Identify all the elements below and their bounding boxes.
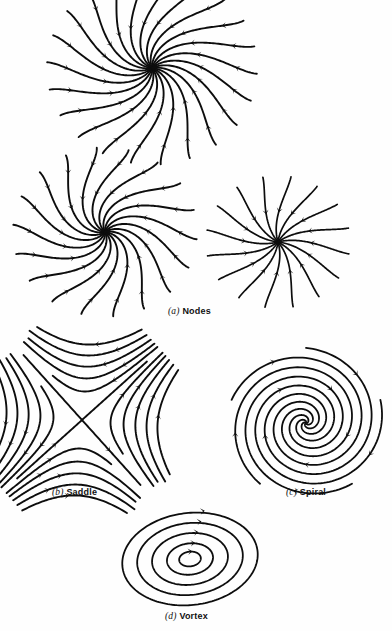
caption-name: Spiral	[297, 487, 326, 497]
caption-name: Saddle	[64, 487, 97, 497]
caption-b: (b) Saddle	[52, 487, 97, 497]
trajectory	[0, 358, 29, 480]
trajectory	[92, 150, 128, 232]
trajectory	[67, 11, 152, 71]
caption-name: Vortex	[177, 611, 208, 621]
trajectory	[105, 216, 197, 239]
trajectory	[152, 65, 237, 125]
trajectory	[152, 53, 257, 73]
closed-orbit	[122, 513, 257, 606]
closed-orbit	[167, 543, 213, 575]
trajectory	[278, 240, 349, 254]
caption-name: Nodes	[180, 306, 211, 316]
closed-orbit	[179, 552, 201, 567]
trajectory	[207, 230, 278, 244]
trajectory	[235, 367, 352, 484]
panel-spiral	[232, 348, 382, 495]
trajectory	[13, 225, 105, 248]
trajectory	[276, 177, 291, 242]
trajectory	[147, 365, 174, 482]
caption-c: (c) Spiral	[286, 487, 326, 497]
panel-saddle	[0, 327, 178, 513]
trajectory	[157, 370, 178, 474]
trajectory	[124, 356, 166, 486]
caption-letter: (b)	[52, 487, 64, 497]
caption-letter: (d)	[165, 611, 177, 621]
caption-a: (a) Nodes	[168, 306, 211, 316]
trajectory	[147, 0, 201, 68]
trajectory	[37, 327, 142, 345]
panel-node-star-right	[207, 177, 349, 307]
caption-d: (d) Vortex	[165, 611, 208, 621]
caption-letter: (a)	[168, 306, 180, 316]
panel-node-improper-left	[13, 148, 196, 317]
trajectory	[47, 62, 152, 82]
trajectory	[0, 359, 17, 476]
trajectory	[22, 495, 127, 513]
trajectory	[40, 172, 105, 235]
trajectory	[105, 229, 170, 292]
trajectory	[81, 232, 117, 314]
closed-orbit	[152, 533, 228, 585]
panel-vortex	[122, 508, 257, 605]
panel-node-degenerate-top	[47, 0, 257, 164]
trajectory	[265, 242, 280, 307]
caption-letter: (c)	[286, 487, 297, 497]
